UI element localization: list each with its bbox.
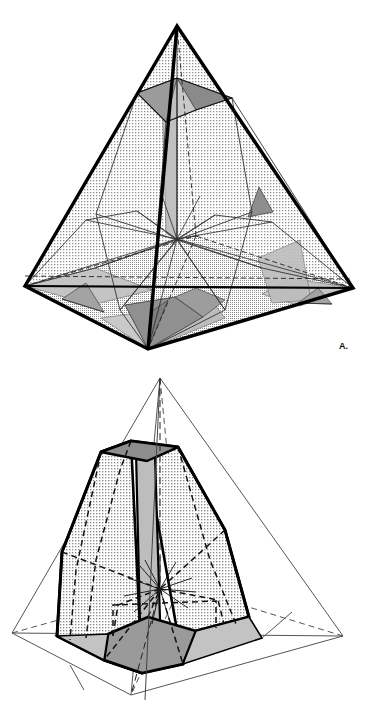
figure-a-label: A. xyxy=(339,341,348,351)
diagram-page: A. xyxy=(0,0,370,715)
figure-a-panel: A. xyxy=(0,0,370,360)
figure-b-svg xyxy=(0,355,370,715)
figure-a-svg xyxy=(0,0,370,360)
figure-b-panel: B. xyxy=(0,355,370,715)
